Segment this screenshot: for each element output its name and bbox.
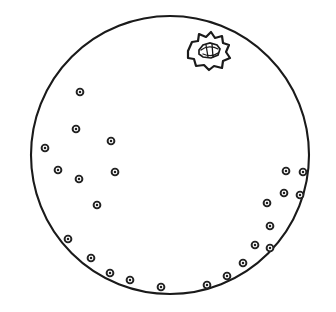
granule-core (110, 140, 113, 143)
granule (108, 138, 115, 145)
granule (42, 145, 49, 152)
granule (224, 273, 231, 280)
figure-container (0, 0, 336, 312)
granule (77, 89, 84, 96)
granule-core (96, 204, 99, 207)
granule (297, 192, 304, 199)
granule (107, 270, 114, 277)
granule (65, 236, 72, 243)
granule-core (269, 225, 272, 228)
granule-core (78, 178, 81, 181)
cell-diagram-canvas (0, 0, 336, 312)
granule-core (79, 91, 82, 94)
granule (283, 168, 290, 175)
granule (204, 282, 211, 289)
granule (281, 190, 288, 197)
granule-core (206, 284, 209, 287)
granule-core (299, 194, 302, 197)
granule-core (226, 275, 229, 278)
granule-core (129, 279, 132, 282)
granule-core (285, 170, 288, 173)
granule (158, 284, 165, 291)
cell-outline (31, 16, 309, 294)
granule-core (160, 286, 163, 289)
granule (55, 167, 62, 174)
granule-core (266, 202, 269, 205)
granule (300, 169, 307, 176)
granule (73, 126, 80, 133)
granule-core (57, 169, 60, 172)
granule-core (114, 171, 117, 174)
granule-core (283, 192, 286, 195)
granule (88, 255, 95, 262)
granule (267, 245, 274, 252)
granule-core (254, 244, 257, 247)
granule-core (242, 262, 245, 265)
granule-core (75, 128, 78, 131)
granule-core (44, 147, 47, 150)
granule (112, 169, 119, 176)
granule-core (269, 247, 272, 250)
granule (264, 200, 271, 207)
granule (267, 223, 274, 230)
granule-core (302, 171, 305, 174)
granule (76, 176, 83, 183)
granule (252, 242, 259, 249)
granule (240, 260, 247, 267)
granule (94, 202, 101, 209)
granule-core (90, 257, 93, 260)
granule-core (67, 238, 70, 241)
granule (127, 277, 134, 284)
granule-core (109, 272, 112, 275)
